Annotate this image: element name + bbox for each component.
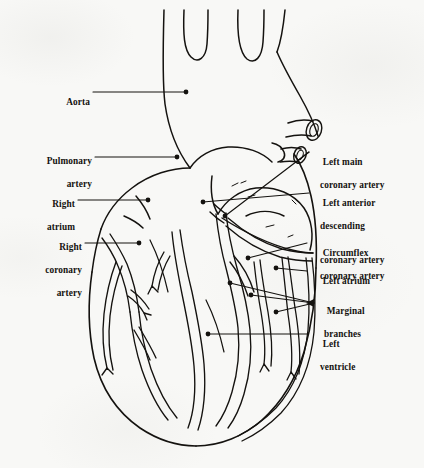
left-anterior-descending-artery xyxy=(216,213,254,428)
label-right-coronary-artery: Right coronary artery xyxy=(8,231,82,311)
heart-silhouette xyxy=(89,154,316,446)
anterior-interventricular-branch xyxy=(148,230,205,430)
aorta-outline xyxy=(163,10,318,168)
coronary-artery-diagram: Aorta Pulmonary artery Right atrium Righ… xyxy=(0,0,424,468)
atrioventricular-groove xyxy=(222,218,313,253)
marginal-branches xyxy=(238,257,315,441)
right-coronary-artery xyxy=(102,234,177,420)
left-atrium-outline xyxy=(218,181,312,250)
leader-dots xyxy=(137,90,279,337)
great-vessel-stumps xyxy=(184,10,285,61)
label-aorta: Aorta xyxy=(28,86,90,120)
label-left-ventricle: Left ventricle xyxy=(313,328,413,396)
circumflex-coronary-artery xyxy=(226,218,313,261)
